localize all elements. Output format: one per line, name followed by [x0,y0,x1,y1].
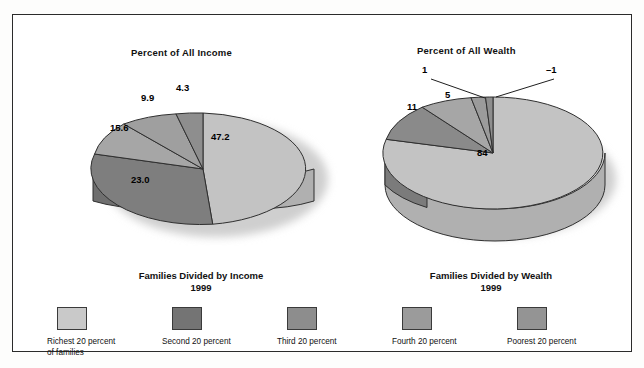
wealth-pie-svg [361,57,631,247]
income-group-title-year: 1999 [91,282,311,294]
income-group-title: Families Divided by Income 1999 [91,270,311,294]
income-pie-svg [71,61,341,246]
legend-label-third: Third 20 percent [277,337,337,348]
wealth-leader-line-fourth [431,79,485,98]
income-label-poorest: 4.3 [176,82,189,93]
legend-swatch-third [287,307,317,330]
legend-item-third[interactable]: Third 20 percent [267,307,382,348]
legend-label-poorest: Poorest 20 percent [507,337,576,348]
income-label-fourth: 9.9 [141,92,154,103]
legend-label-richest: Richest 20 percent of families [47,337,115,358]
wealth-label-second: 11 [407,101,417,112]
wealth-group-title-year: 1999 [381,282,601,294]
income-label-third: 15.6 [110,122,129,133]
wealth-label-fourth: 1 [422,64,427,75]
figure-frame: Percent of All Income [12,14,632,352]
wealth-label-poorest: –1 [546,64,557,75]
wealth-group-title: Families Divided by Wealth 1999 [381,270,601,294]
legend-swatch-second [172,307,202,330]
wealth-leader-line-poorest [496,79,554,97]
wealth-label-richest: 84 [477,147,488,158]
wealth-chart-title: Percent of All Wealth [417,45,516,56]
income-chart-title: Percent of All Income [131,47,232,58]
legend-swatch-poorest [517,307,547,330]
income-label-second: 23.0 [131,174,150,185]
legend-label-fourth: Fourth 20 percent [392,337,457,348]
legend-label-second: Second 20 percent [162,337,231,348]
wealth-pie-chart [361,57,631,247]
legend-swatch-richest [57,307,87,330]
legend: Richest 20 percent of families Second 20… [37,307,633,357]
income-group-title-line1: Families Divided by Income [91,270,311,282]
legend-swatch-fourth [402,307,432,330]
income-pie-chart [71,61,341,246]
income-label-richest: 47.2 [211,131,230,142]
wealth-group-title-line1: Families Divided by Wealth [381,270,601,282]
legend-item-richest[interactable]: Richest 20 percent of families [37,307,152,358]
wealth-label-third: 5 [445,89,450,100]
legend-item-fourth[interactable]: Fourth 20 percent [382,307,497,348]
legend-item-second[interactable]: Second 20 percent [152,307,267,348]
legend-item-poorest[interactable]: Poorest 20 percent [497,307,612,348]
